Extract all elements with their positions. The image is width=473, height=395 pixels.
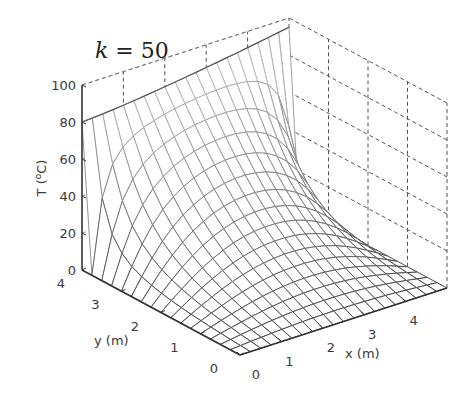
z-tick-label: 80 (59, 115, 76, 130)
z-tick-label: 20 (59, 226, 76, 241)
x-tick-label: 4 (409, 313, 417, 328)
z-tick-label: 40 (59, 189, 76, 204)
z-tick-label: 100 (51, 78, 76, 93)
x-tick-label: 3 (368, 327, 376, 342)
x-axis-label: x (m) (345, 346, 380, 361)
y-tick-label: 1 (170, 340, 178, 355)
y-tick-label: 0 (210, 361, 218, 376)
x-tick-label: 1 (285, 354, 293, 369)
z-label-unit: C) (34, 160, 49, 174)
z-tick-label: 0 (68, 263, 76, 278)
x-tick-label: 0 (252, 367, 260, 382)
chart-title: k = 50 (95, 38, 169, 63)
z-axis-label: T (oC) (33, 160, 49, 198)
z-label-part: T ( (34, 179, 49, 197)
z-tick-label: 60 (59, 152, 76, 167)
y-axis-label: y (m) (94, 333, 129, 348)
y-tick-label: 3 (91, 297, 99, 312)
y-tick-label: 4 (57, 276, 65, 291)
surface-plot: 0204060801000123401234 k = 50 T (oC) y (… (0, 0, 473, 395)
title-variable: k (95, 38, 108, 63)
y-tick-label: 2 (131, 319, 139, 334)
title-value: = 50 (108, 38, 168, 63)
x-tick-label: 2 (327, 340, 335, 355)
